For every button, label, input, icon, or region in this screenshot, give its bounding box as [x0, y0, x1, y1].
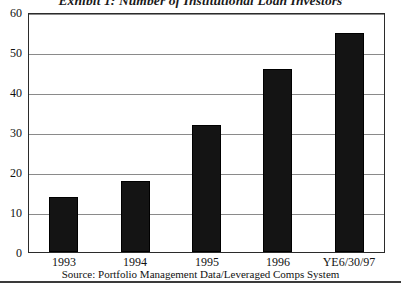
- gridline-40: [29, 94, 384, 95]
- y-tick-label: 40: [10, 87, 22, 99]
- gridline-20: [29, 174, 384, 175]
- y-tick-label: 10: [10, 207, 22, 219]
- chart-title: Exhibit 1: Number of Institutional Loan …: [0, 0, 401, 9]
- y-tick-label: 20: [10, 167, 22, 179]
- gridline-30: [29, 134, 384, 135]
- source-note: Source: Portfolio Management Data/Levera…: [0, 268, 401, 281]
- x-tick-label: YE6/30/97: [323, 255, 376, 269]
- x-tick-label: 1994: [123, 255, 147, 269]
- bottom-rule: [0, 281, 401, 283]
- y-tick-label: 0: [16, 247, 22, 259]
- plot-area: [28, 13, 385, 253]
- y-axis: 0102030405060: [0, 13, 25, 253]
- x-tick-label: 1993: [52, 255, 76, 269]
- x-tick-label: 1996: [266, 255, 290, 269]
- y-tick-label: 60: [10, 7, 22, 19]
- gridline-60: [29, 14, 384, 15]
- y-tick-label: 30: [10, 127, 22, 139]
- y-tick-label: 50: [10, 47, 22, 59]
- gridline-10: [29, 214, 384, 215]
- x-tick-label: 1995: [195, 255, 219, 269]
- chart-figure: Exhibit 1: Number of Institutional Loan …: [0, 0, 401, 286]
- gridline-50: [29, 54, 384, 55]
